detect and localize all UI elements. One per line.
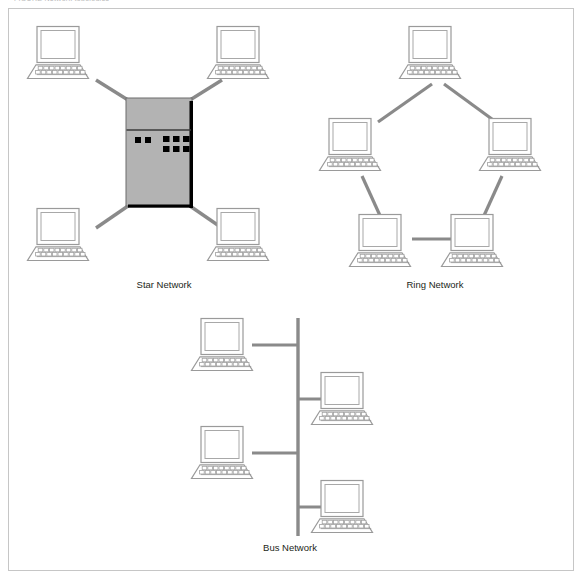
ring-node-right: [480, 119, 541, 171]
bus-network-label: Bus Network: [263, 542, 317, 553]
ring-node-top: [400, 27, 461, 79]
bus-node-left-upper: [192, 319, 253, 371]
ring-node-bottom-right: [442, 215, 503, 267]
bus-node-right-upper: [312, 373, 373, 425]
star-network-label: Star Network: [137, 279, 192, 290]
topology-ring: Ring Network: [320, 27, 541, 291]
star-node-top-right: [208, 27, 269, 79]
ring-link-right-to-bottom-right: [482, 176, 502, 220]
star-link-top-left: [96, 80, 128, 100]
topology-bus: Bus Network: [192, 318, 373, 553]
star-link-bottom-left: [96, 206, 128, 228]
star-central-server: [126, 98, 193, 208]
star-node-bottom-right: [208, 209, 269, 261]
star-link-top-right: [190, 80, 222, 100]
topology-star: Star Network: [28, 27, 269, 291]
figure-page: FIGURE Network topologies: [0, 0, 584, 582]
ring-node-left: [320, 119, 381, 171]
ring-node-bottom-left: [350, 215, 411, 267]
ring-link-left-to-bottom-left: [362, 176, 382, 220]
ring-network-label: Ring Network: [406, 279, 463, 290]
ring-link-top-to-left: [378, 84, 432, 122]
star-node-bottom-left: [28, 209, 89, 261]
network-topologies-diagram: Star Network Ring Network: [0, 0, 584, 582]
star-node-top-left: [28, 27, 89, 79]
ring-link-top-to-right: [444, 84, 496, 122]
bus-node-left-lower: [192, 427, 253, 479]
bus-node-right-lower: [312, 481, 373, 533]
